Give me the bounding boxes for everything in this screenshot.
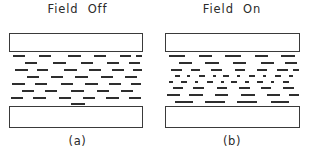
molecule-dash <box>129 62 140 64</box>
molecule-dash <box>51 76 63 78</box>
molecule-dash <box>241 94 255 96</box>
molecule-dash <box>71 90 84 92</box>
molecule-dash <box>215 94 228 96</box>
molecule-dash <box>207 81 213 83</box>
molecule-dash <box>39 55 51 57</box>
molecule-dash <box>275 75 281 77</box>
molecule-dash <box>169 81 173 83</box>
molecule-dash <box>121 90 133 92</box>
molecule-dash <box>283 81 289 83</box>
molecule-dash <box>107 62 119 64</box>
molecule-dash <box>261 62 274 64</box>
molecule-dash <box>81 62 93 64</box>
panel-b-liquid-crystal-region <box>165 52 300 106</box>
molecule-dash <box>179 62 192 64</box>
molecule-dash <box>53 62 66 64</box>
molecule-dash <box>193 87 204 89</box>
molecule-dash <box>133 69 142 71</box>
molecule-dash <box>223 75 229 77</box>
molecule-dash <box>11 97 23 99</box>
molecule-dash <box>281 55 295 57</box>
panel-b-upper-plate <box>165 33 300 52</box>
molecule-dash <box>289 94 299 96</box>
panel-a-lower-plate <box>9 106 143 128</box>
molecule-dash <box>45 90 57 92</box>
molecule-dash <box>249 75 255 77</box>
molecule-dash <box>293 69 299 71</box>
panel-b-lower-plate <box>165 106 300 128</box>
molecule-dash <box>211 69 222 71</box>
molecule-dash <box>289 75 293 77</box>
molecule-dash <box>257 69 267 71</box>
molecule-dash <box>221 81 224 83</box>
liquid-crystal-field-diagram: Field Off (a) Field On (b) <box>0 0 309 160</box>
molecule-dash <box>129 97 141 99</box>
molecule-dash <box>12 83 25 85</box>
molecule-dash <box>175 75 180 77</box>
molecule-dash <box>27 76 39 78</box>
molecule-dash <box>37 69 48 71</box>
molecule-dash <box>131 83 141 85</box>
molecule-dash <box>237 101 257 103</box>
molecule-dash <box>217 87 227 89</box>
molecule-dash <box>187 75 190 77</box>
molecule-dash <box>205 101 225 103</box>
molecule-dash <box>89 69 101 71</box>
molecule-dash <box>94 55 106 57</box>
molecule-dash <box>181 81 187 83</box>
molecule-dash <box>175 101 193 103</box>
panel-b-caption: (b) <box>155 134 309 148</box>
panel-a-caption: (a) <box>0 134 155 148</box>
molecule-dash <box>85 83 98 85</box>
molecule-dash <box>199 55 212 57</box>
molecule-dash <box>22 90 34 92</box>
molecule-dash <box>136 55 142 57</box>
molecule-dash <box>231 81 237 83</box>
molecule-dash <box>75 76 88 78</box>
molecule-dash <box>271 101 289 103</box>
molecule-dash <box>33 97 46 99</box>
molecule-dash <box>97 90 109 92</box>
molecule-dash <box>239 87 250 89</box>
molecule-dash <box>233 62 246 64</box>
molecule-dash <box>25 62 37 64</box>
molecule-dash <box>173 87 183 89</box>
molecule-dash <box>213 75 216 77</box>
molecule-dash <box>120 55 131 57</box>
molecule-dash <box>245 81 249 83</box>
molecule-dash <box>225 55 241 57</box>
molecule-dash <box>112 69 124 71</box>
molecule-dash <box>169 55 185 57</box>
panel-field-on: Field On (b) <box>155 0 309 160</box>
molecule-dash <box>205 62 219 64</box>
panel-a-upper-plate <box>9 33 143 52</box>
molecule-dash <box>189 94 203 96</box>
molecule-dash <box>59 97 71 99</box>
molecule-dash <box>261 87 271 89</box>
molecule-dash <box>171 69 182 71</box>
molecule-dash <box>285 62 297 64</box>
molecule-dash <box>167 94 180 96</box>
molecule-dash <box>61 83 73 85</box>
molecule-dash <box>35 83 47 85</box>
molecule-dash <box>195 81 198 83</box>
molecule-dash <box>83 97 95 99</box>
molecule-dash <box>271 81 274 83</box>
molecule-dash <box>235 69 245 71</box>
molecule-dash <box>64 69 77 71</box>
panel-a-liquid-crystal-region <box>9 52 143 106</box>
molecule-dash <box>13 55 25 57</box>
molecule-dash <box>125 76 137 78</box>
molecule-dash <box>15 69 28 71</box>
molecule-dash <box>267 94 280 96</box>
molecule-dash <box>277 69 288 71</box>
molecule-dash <box>191 69 200 71</box>
molecule-dash <box>255 55 268 57</box>
molecule-dash <box>283 87 294 89</box>
molecule-dash <box>257 81 263 83</box>
molecule-dash <box>101 76 113 78</box>
molecule-dash <box>68 55 81 57</box>
panel-a-title: Field Off <box>0 2 155 16</box>
panel-field-off: Field Off (a) <box>0 0 155 160</box>
molecule-dash <box>71 103 85 105</box>
